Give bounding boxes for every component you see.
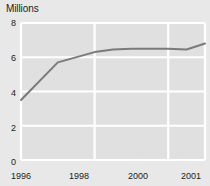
plot-area — [0, 0, 210, 186]
chart-container: Millions 8 6 4 2 0 1996 1998 2000 2001 — [0, 0, 210, 186]
